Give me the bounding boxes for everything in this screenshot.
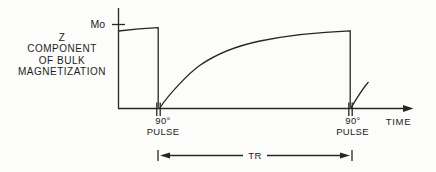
- mo-label: Mo: [90, 18, 105, 30]
- time-axis-label: TIME: [386, 116, 412, 127]
- y-axis-label-line-3: OF BULK: [39, 55, 85, 66]
- y-axis-label-line-1: Z: [59, 32, 66, 43]
- pulse2-degree-label: 90°: [345, 115, 360, 126]
- tr-left-arrowhead-icon: [160, 153, 170, 159]
- diagram-canvas: TR Mo Z COMPONENT OF BULK MAGNETIZATION …: [0, 0, 436, 172]
- curve-second-recovery-start: [351, 82, 369, 108]
- tr-right-arrowhead-icon: [340, 153, 350, 159]
- pulse1-degree-label: 90°: [155, 115, 170, 126]
- tr-label: TR: [248, 150, 262, 161]
- magnetization-recovery-diagram: TR Mo Z COMPONENT OF BULK MAGNETIZATION …: [0, 0, 436, 172]
- pulse-ticks-group: [157, 103, 352, 117]
- curve-t1-recovery-and-drop: [160, 31, 350, 108]
- labels-group: Mo Z COMPONENT OF BULK MAGNETIZATION 90°…: [18, 18, 411, 137]
- curve-initial-plateau-and-drop: [119, 28, 159, 108]
- x-axis-arrowhead-icon: [403, 105, 414, 112]
- y-axis-label-line-4: MAGNETIZATION: [18, 66, 106, 77]
- curves-group: [119, 28, 369, 108]
- y-axis-label-line-2: COMPONENT: [27, 43, 97, 54]
- tr-interval-group: TR: [158, 150, 352, 162]
- pulse1-pulse-label: PULSE: [147, 126, 180, 137]
- axes-group: [112, 8, 414, 112]
- pulse2-pulse-label: PULSE: [336, 126, 369, 137]
